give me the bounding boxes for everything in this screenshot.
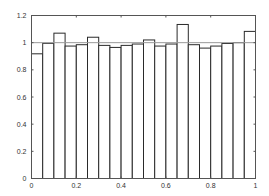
y-tick-label: 0.2 bbox=[17, 148, 27, 155]
histogram-bar bbox=[155, 46, 166, 178]
histogram-bar bbox=[166, 44, 177, 178]
bars-group bbox=[32, 24, 256, 178]
histogram-bar bbox=[222, 43, 233, 178]
histogram-bar bbox=[65, 46, 76, 178]
histogram-bar bbox=[188, 45, 199, 179]
histogram-bar bbox=[144, 40, 155, 179]
histogram-bar bbox=[177, 24, 188, 178]
x-tick-label: 0 bbox=[30, 182, 34, 189]
y-tick-label: 0.4 bbox=[17, 121, 27, 128]
histogram-bar bbox=[211, 46, 222, 178]
x-tick-label: 0.2 bbox=[71, 182, 81, 189]
y-tick-label: 1 bbox=[23, 39, 27, 46]
x-tick-label: 0.8 bbox=[206, 182, 216, 189]
y-tick-label: 0.8 bbox=[17, 66, 27, 73]
y-tick-label: 1.2 bbox=[17, 12, 27, 19]
x-tick-label: 1 bbox=[254, 182, 258, 189]
histogram-chart: 00.20.40.60.81 00.20.40.60.811.2 bbox=[0, 0, 269, 196]
x-tick-label: 0.4 bbox=[116, 182, 126, 189]
histogram-bar bbox=[54, 33, 65, 178]
histogram-bar bbox=[121, 45, 132, 178]
histogram-bar bbox=[132, 44, 143, 178]
y-tick-labels: 00.20.40.60.811.2 bbox=[17, 12, 27, 182]
histogram-bar bbox=[233, 43, 244, 179]
histogram-bar bbox=[110, 47, 121, 178]
histogram-bar bbox=[244, 31, 255, 178]
y-tick-label: 0 bbox=[23, 175, 27, 182]
histogram-bar bbox=[88, 37, 99, 178]
histogram-bar bbox=[76, 45, 87, 179]
histogram-bar bbox=[99, 45, 110, 178]
x-tick-labels: 00.20.40.60.81 bbox=[30, 182, 258, 189]
histogram-bar bbox=[43, 43, 54, 178]
x-tick-label: 0.6 bbox=[161, 182, 171, 189]
histogram-bar bbox=[200, 48, 211, 178]
histogram-bar bbox=[32, 54, 43, 179]
y-tick-label: 0.6 bbox=[17, 94, 27, 101]
